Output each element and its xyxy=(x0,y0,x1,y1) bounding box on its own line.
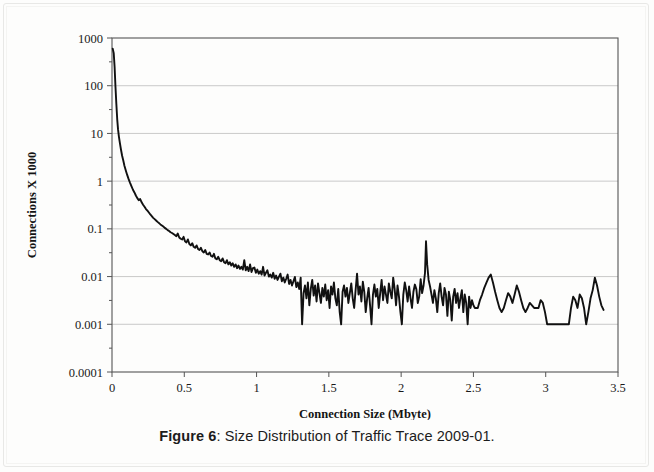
x-tick-label: 1.5 xyxy=(321,381,337,395)
x-tick-label: 0 xyxy=(109,381,115,395)
x-tick-label: 2 xyxy=(398,381,404,395)
chart-plot: 0.00010.0010.010.11101001000 00.511.522.… xyxy=(0,0,654,420)
y-tick-label: 1000 xyxy=(78,32,103,46)
gridlines-group xyxy=(112,86,618,325)
x-tick-label: 0.5 xyxy=(176,381,192,395)
x-tick-label: 1 xyxy=(253,381,259,395)
y-tick-labels-group: 0.00010.0010.010.11101001000 xyxy=(69,32,103,380)
y-tick-label: 0.0001 xyxy=(69,366,103,380)
y-tick-label: 1 xyxy=(97,175,103,189)
y-axis-title: Connections X 1000 xyxy=(25,152,39,258)
x-tick-label: 2.5 xyxy=(466,381,482,395)
tickmarks-group xyxy=(107,38,618,377)
x-axis-title: Connection Size (Mbyte) xyxy=(299,407,431,420)
plot-frame xyxy=(112,38,618,372)
y-tick-label: 0.001 xyxy=(75,318,103,332)
x-tick-label: 3.5 xyxy=(610,381,626,395)
chart-figure: 0.00010.0010.010.11101001000 00.511.522.… xyxy=(0,0,654,420)
figure-caption: Figure 6: Size Distribution of Traffic T… xyxy=(0,428,654,444)
y-tick-label: 100 xyxy=(84,79,103,93)
figure-page: 0.00010.0010.010.11101001000 00.511.522.… xyxy=(0,0,654,472)
x-tick-labels-group: 00.511.522.533.5 xyxy=(109,381,626,395)
caption-separator: : xyxy=(216,428,224,444)
y-tick-label: 10 xyxy=(91,127,104,141)
data-series-line xyxy=(113,49,604,325)
y-tick-label: 0.01 xyxy=(81,270,103,284)
x-tick-label: 3 xyxy=(543,381,549,395)
caption-text: Size Distribution of Traffic Trace 2009-… xyxy=(225,428,495,444)
figure-number: Figure 6 xyxy=(159,428,216,444)
y-tick-label: 0.1 xyxy=(87,222,103,236)
